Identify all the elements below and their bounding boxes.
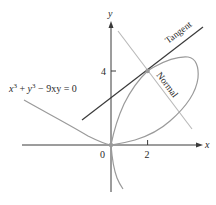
folium-lower-branch [111,145,123,189]
x-axis-arrow-icon [196,143,203,148]
y-tick-label: 4 [101,66,106,77]
origin-label: 0 [100,149,105,160]
x-tick-label: 2 [145,149,150,160]
axes [22,21,203,192]
eq-plus: + [17,83,28,94]
point-of-tangency [145,69,149,73]
y-axis-arrow-icon [109,21,114,28]
folium-diagram: y x 0 2 4 Tangent Normal x3 + y3 − 9xy =… [0,0,216,205]
y-axis-label: y [107,8,113,19]
folium-loop [111,57,198,145]
tangent-label: Tangent [163,19,194,46]
eq-rest: − 9xy = 0 [36,83,77,94]
normal-line [118,31,192,129]
x-axis-label: x [204,139,210,150]
diagram-canvas: y x 0 2 4 Tangent Normal x3 + y3 − 9xy =… [0,0,216,205]
folium-left-branch [24,100,111,145]
origin-point [109,143,113,147]
equation-label: x3 + y3 − 9xy = 0 [8,82,77,94]
